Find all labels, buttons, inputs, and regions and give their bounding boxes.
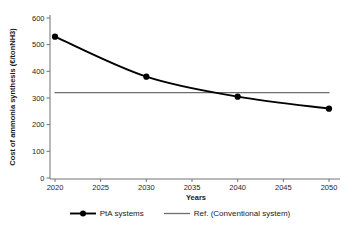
- ammonia-cost-line-chart: Cost of ammonia synthesis (€/tonNH3) Yea…: [0, 0, 360, 234]
- y-tick-label: 500: [32, 40, 45, 49]
- legend-item-pta-systems: PtA systems: [70, 209, 144, 218]
- x-tick-label: 2040: [229, 183, 246, 192]
- x-tick-label: 2050: [321, 183, 338, 192]
- y-tick-label: 100: [32, 147, 45, 156]
- legend-item-ref-conventional-system: Ref. (Conventional system): [164, 209, 290, 218]
- legend-label: Ref. (Conventional system): [194, 209, 290, 218]
- x-tick-label: 2035: [184, 183, 201, 192]
- pta-systems-data-point-marker: [143, 74, 149, 80]
- y-tick-label: 600: [32, 14, 45, 23]
- x-axis-title: Years: [186, 193, 206, 202]
- y-tick-label: 400: [32, 67, 45, 76]
- pta-systems-line: [55, 37, 329, 109]
- x-tick-label: 2030: [138, 183, 155, 192]
- y-axis-title: Cost of ammonia synthesis (€/tonNH3): [8, 28, 17, 166]
- legend-marker: [80, 211, 86, 217]
- y-tick-label: 300: [32, 94, 45, 103]
- pta-systems-data-point-marker: [326, 106, 332, 112]
- legend-pta-systems-symbol-icon: [70, 209, 96, 218]
- legend-label: PtA systems: [100, 209, 144, 218]
- x-tick-label: 2025: [92, 183, 109, 192]
- legend: PtA systemsRef. (Conventional system): [0, 209, 360, 218]
- x-tick-label: 2045: [275, 183, 292, 192]
- y-tick-label: 0: [40, 174, 44, 183]
- pta-systems-data-point-marker: [52, 34, 58, 40]
- chart-container: Cost of ammonia synthesis (€/tonNH3) Yea…: [0, 0, 360, 234]
- plot-area: 0100200300400500600202020252030203520402…: [32, 14, 340, 192]
- legend-ref-conventional-system-symbol-icon: [164, 209, 190, 218]
- pta-systems-data-point-marker: [235, 94, 241, 100]
- y-tick-label: 200: [32, 120, 45, 129]
- x-tick-label: 2020: [47, 183, 64, 192]
- axes: [50, 15, 340, 179]
